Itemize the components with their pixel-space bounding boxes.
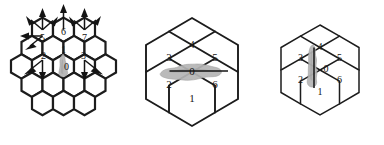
hex-cell — [53, 91, 74, 115]
panel-right-vertical-blob: 4 3 5 0 2 6 1 — [256, 0, 384, 145]
panel-left-arrow-grid: 5 6 7 1 2 3 0 — [0, 0, 128, 145]
cell-label-0: 0 — [189, 65, 195, 77]
cell-label-0: 0 — [324, 63, 329, 74]
arrow-head — [81, 8, 88, 17]
arrow-head — [39, 8, 46, 17]
cell-label-1: 1 — [189, 92, 195, 104]
cell-label-6: 6 — [61, 26, 66, 37]
arrow-head — [60, 4, 67, 13]
cell-label-2: 2 — [298, 74, 303, 85]
cell-label-1: 1 — [318, 86, 323, 97]
hex-cell — [32, 91, 53, 115]
arrow-head — [20, 33, 29, 40]
cell-label-3: 3 — [166, 51, 172, 63]
cell-label-5: 5 — [337, 52, 342, 63]
hex-cell — [74, 91, 95, 115]
cell-label-0: 0 — [64, 61, 69, 72]
cell-label-7: 7 — [82, 32, 87, 43]
figure-root: 5 6 7 1 2 3 0 — [0, 0, 384, 145]
cell-label-1: 1 — [61, 44, 66, 55]
cell-label-4: 4 — [189, 38, 195, 50]
panel-middle-horizontal-blob: 4 3 5 0 2 6 1 — [128, 0, 256, 145]
hex-grid-right — [281, 25, 359, 115]
cell-label-3: 3 — [81, 50, 86, 61]
cell-label-3: 3 — [298, 52, 303, 63]
cell-label-2: 2 — [166, 78, 172, 90]
cell-label-5: 5 — [40, 32, 45, 43]
cell-label-4: 4 — [318, 41, 323, 52]
cell-label-6: 6 — [212, 78, 218, 90]
cell-label-6: 6 — [337, 74, 342, 85]
cell-label-5: 5 — [212, 51, 218, 63]
cell-label-2: 2 — [41, 50, 46, 61]
